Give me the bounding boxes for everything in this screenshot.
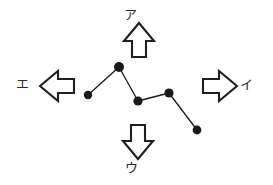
arrow-left-label: エ xyxy=(16,77,29,90)
star-dot-4 xyxy=(164,88,173,97)
arrow-up-label: ア xyxy=(124,8,137,21)
constellation-diagram xyxy=(0,0,273,185)
arrow-right-label: イ xyxy=(240,78,253,91)
star-dot-1 xyxy=(84,91,92,99)
figure-canvas: ア イ ウ エ xyxy=(0,0,273,185)
arrow-down-icon[interactable] xyxy=(123,125,153,159)
constellation-links xyxy=(88,67,197,130)
arrow-down-label: ウ xyxy=(125,161,138,174)
star-link-2-3 xyxy=(119,67,138,101)
star-dot-3 xyxy=(133,96,142,105)
arrow-right-icon[interactable] xyxy=(203,71,237,101)
star-dot-5 xyxy=(193,126,202,135)
arrow-up-icon[interactable] xyxy=(124,23,154,57)
star-link-4-5 xyxy=(169,93,197,130)
arrow-left-icon[interactable] xyxy=(40,71,74,101)
constellation-stars xyxy=(84,62,202,134)
star-dot-2 xyxy=(114,62,124,72)
star-link-1-2 xyxy=(88,67,119,95)
star-link-3-4 xyxy=(138,93,169,101)
